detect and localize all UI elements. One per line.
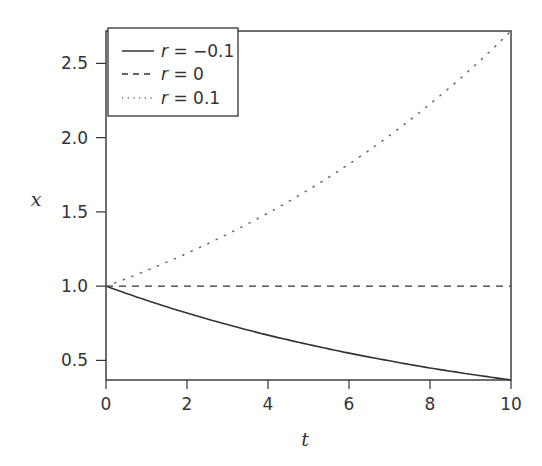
svg-text:r = −0.1: r = −0.1 bbox=[161, 41, 234, 61]
legend-value: 0.1 bbox=[193, 88, 220, 108]
y-axis-label: x bbox=[31, 188, 42, 210]
y-tick-label: 0.5 bbox=[61, 350, 88, 370]
svg-text:r = 0.1: r = 0.1 bbox=[161, 88, 220, 108]
legend-eq: = bbox=[168, 41, 193, 61]
x-tick-label: 10 bbox=[500, 394, 522, 414]
legend: r = −0.1 r = 0 r = 0.1 bbox=[108, 28, 238, 116]
y-axis-ticks: 0.51.01.52.02.5 bbox=[61, 53, 106, 370]
y-tick-label: 1.0 bbox=[61, 276, 88, 296]
legend-eq: = bbox=[168, 64, 193, 84]
x-axis-ticks: 0246810 bbox=[101, 380, 522, 414]
legend-eq: = bbox=[168, 88, 193, 108]
y-tick-label: 1.5 bbox=[61, 202, 88, 222]
x-tick-label: 4 bbox=[263, 394, 274, 414]
x-axis-label: t bbox=[301, 428, 309, 450]
line-chart: 0246810 0.51.01.52.02.5 t x r = −0.1 r =… bbox=[0, 0, 542, 466]
legend-value: 0 bbox=[193, 64, 204, 84]
svg-text:r = 0: r = 0 bbox=[161, 64, 204, 84]
series-r-neg-0.1 bbox=[106, 286, 511, 380]
y-tick-label: 2.5 bbox=[61, 53, 88, 73]
x-tick-label: 8 bbox=[425, 394, 436, 414]
x-tick-label: 0 bbox=[101, 394, 112, 414]
x-tick-label: 2 bbox=[182, 394, 193, 414]
legend-value: −0.1 bbox=[193, 41, 234, 61]
x-tick-label: 6 bbox=[344, 394, 355, 414]
y-tick-label: 2.0 bbox=[61, 128, 88, 148]
